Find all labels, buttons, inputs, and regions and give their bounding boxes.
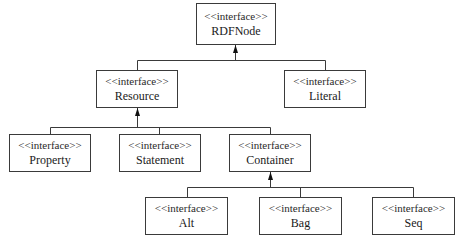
stereotype-label: <<interface>>: [293, 74, 356, 89]
interface-name: Seq: [405, 216, 423, 231]
interface-name: Bag: [291, 216, 310, 231]
arrowhead-rdfnode-icon: [233, 45, 238, 53]
interface-name: Statement: [136, 153, 184, 168]
interface-alt: <<interface>> Alt: [145, 197, 228, 235]
interface-seq: <<interface>> Seq: [372, 197, 455, 235]
stereotype-label: <<interface>>: [269, 201, 332, 216]
arrowhead-container-icon: [268, 172, 273, 180]
interface-name: Container: [246, 153, 293, 168]
stereotype-label: <<interface>>: [155, 201, 218, 216]
arrowhead-resource-icon: [135, 108, 140, 116]
interface-container: <<interface>> Container: [229, 134, 311, 172]
interface-name: Property: [29, 153, 70, 168]
stereotype-label: <<interface>>: [204, 9, 267, 24]
interface-rdfnode: <<interface>> RDFNode: [196, 3, 276, 45]
stereotype-label: <<interface>>: [128, 138, 191, 153]
interface-name: Literal: [309, 89, 341, 104]
interface-literal: <<interface>> Literal: [284, 70, 366, 108]
stereotype-label: <<interface>>: [105, 74, 168, 89]
interface-name: Resource: [115, 89, 160, 104]
stereotype-label: <<interface>>: [238, 138, 301, 153]
stereotype-label: <<interface>>: [382, 201, 445, 216]
stereotype-label: <<interface>>: [18, 138, 81, 153]
interface-bag: <<interface>> Bag: [259, 197, 342, 235]
interface-name: RDFNode: [211, 24, 260, 39]
interface-resource: <<interface>> Resource: [96, 70, 178, 108]
interface-statement: <<interface>> Statement: [119, 134, 201, 172]
interface-property: <<interface>> Property: [9, 134, 91, 172]
uml-class-diagram: <<interface>> RDFNode <<interface>> Reso…: [0, 0, 465, 246]
interface-name: Alt: [179, 216, 194, 231]
